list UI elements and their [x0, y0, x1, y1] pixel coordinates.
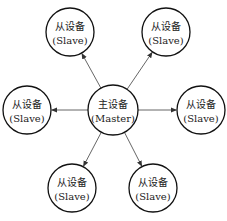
master-node-label-cn: 主设备 [98, 98, 128, 110]
slave-node-2-circle [142, 8, 190, 56]
master-node: 主设备(Master) [88, 85, 138, 135]
slave-node-5-label-en: (Slave) [54, 191, 89, 202]
slave-node-1: 从设备(Slave) [46, 8, 94, 56]
slave-node-1-label-en: (Slave) [52, 35, 87, 46]
slave-node-1-label-cn: 从设备 [55, 20, 85, 32]
star-topology-diagram: 从设备(Slave)从设备(Slave)从设备(Slave)从设备(Slave)… [0, 0, 227, 221]
edge-master-to-slave-6 [124, 132, 141, 166]
slave-node-5: 从设备(Slave) [48, 164, 96, 212]
edge-master-to-slave-2 [127, 53, 152, 90]
slave-node-6-label-en: (Slave) [135, 191, 170, 202]
slave-node-6-label-cn: 从设备 [138, 176, 168, 188]
slave-node-1-circle [46, 8, 94, 56]
slave-node-5-label-cn: 从设备 [57, 176, 87, 188]
master-node-circle [88, 85, 138, 135]
slave-node-4-circle [177, 86, 225, 134]
slave-node-6-circle [129, 164, 177, 212]
slave-node-4-label-cn: 从设备 [186, 98, 216, 110]
slave-node-3-label-en: (Slave) [9, 113, 44, 124]
slave-node-4-label-en: (Slave) [183, 113, 218, 124]
edge-master-to-slave-5 [84, 132, 102, 166]
slave-node-5-circle [48, 164, 96, 212]
slave-node-6: 从设备(Slave) [129, 164, 177, 212]
slave-node-2-label-en: (Slave) [148, 35, 183, 46]
slave-node-2: 从设备(Slave) [142, 8, 190, 56]
slave-node-3-label-cn: 从设备 [12, 98, 42, 110]
slave-node-3: 从设备(Slave) [3, 86, 51, 134]
master-node-label-en: (Master) [91, 113, 135, 124]
diagram-svg: 从设备(Slave)从设备(Slave)从设备(Slave)从设备(Slave)… [0, 0, 227, 221]
slave-node-3-circle [3, 86, 51, 134]
nodes: 从设备(Slave)从设备(Slave)从设备(Slave)从设备(Slave)… [3, 8, 225, 212]
slave-node-2-label-cn: 从设备 [151, 20, 181, 32]
edge-master-to-slave-1 [82, 54, 101, 88]
slave-node-4: 从设备(Slave) [177, 86, 225, 134]
